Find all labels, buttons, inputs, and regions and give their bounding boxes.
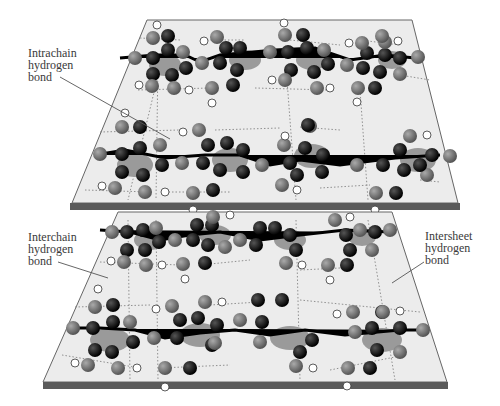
label-line: bond [425,254,472,266]
intersheet-hbond-label: Intersheet hydrogen bond [425,230,472,266]
intrachain-hbond-label: Intrachain hydrogen bond [28,47,77,83]
interchain-hbond-label: Interchain hydrogen bond [28,231,77,267]
lower-sheet [43,210,448,391]
label-line: bond [28,255,77,267]
label-line: bond [28,71,77,83]
upper-sheet [70,19,460,214]
